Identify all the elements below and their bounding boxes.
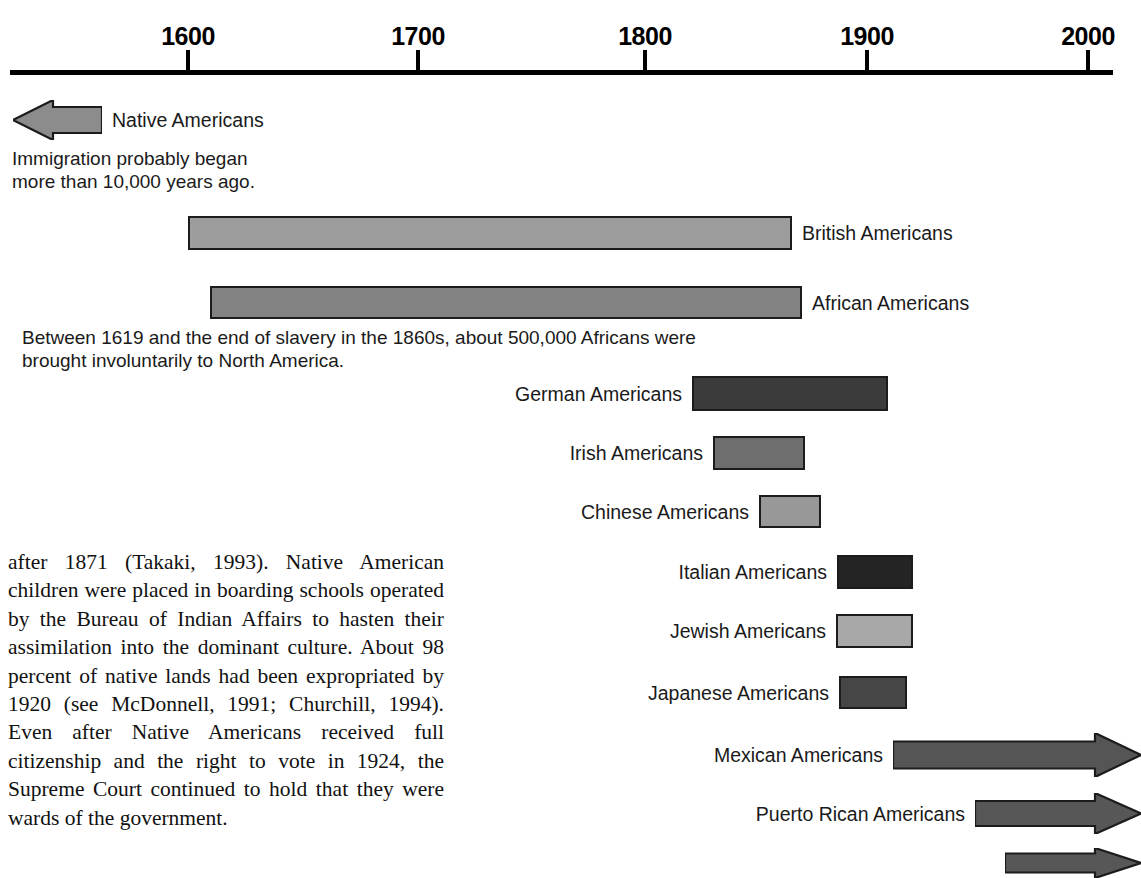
- timeline-bar-jewish-americans: [836, 614, 913, 648]
- note-line-2: more than 10,000 years ago.: [12, 170, 255, 193]
- timeline-bar-german-americans: [692, 376, 888, 411]
- timeline-bar-japanese-americans: [839, 676, 907, 709]
- row-label-puerto-rican-americans: Puerto Rican Americans: [756, 805, 965, 825]
- row-label-british-americans: British Americans: [802, 224, 953, 244]
- axis-tick-label-1700: 1700: [391, 22, 445, 51]
- timeline-arrow-right-puerto-rican-americans: [975, 793, 1141, 834]
- note-african-americans: Between 1619 and the end of slavery in t…: [22, 326, 696, 372]
- row-label-italian-americans: Italian Americans: [679, 563, 828, 583]
- timeline-bar-chinese-americans: [759, 495, 821, 528]
- body-paragraph: after 1871 (Takaki, 1993). Native Americ…: [8, 548, 444, 832]
- axis-tick-label-1600: 1600: [161, 22, 215, 51]
- axis-tick-label-2000: 2000: [1061, 22, 1115, 51]
- row-label-irish-americans: Irish Americans: [570, 444, 703, 464]
- timeline-bar-irish-americans: [713, 436, 805, 470]
- row-label-jewish-americans: Jewish Americans: [670, 622, 826, 642]
- timeline-arrow-right-mexican-americans: [893, 733, 1141, 777]
- note-line-1: Between 1619 and the end of slavery in t…: [22, 326, 696, 349]
- note-native-americans: Immigration probably beganmore than 10,0…: [12, 147, 255, 193]
- axis-tick-1900: [865, 50, 869, 72]
- timeline-bar-british-americans: [188, 216, 792, 250]
- body-text-column: after 1871 (Takaki, 1993). Native Americ…: [8, 548, 444, 832]
- axis-tick-1600: [186, 50, 190, 72]
- axis-tick-label-1800: 1800: [618, 22, 672, 51]
- axis-tick-label-1900: 1900: [840, 22, 894, 51]
- timeline-bar-african-americans: [210, 286, 802, 319]
- row-label-chinese-americans: Chinese Americans: [581, 503, 749, 523]
- axis-tick-1800: [643, 50, 647, 72]
- row-label-native-americans: Native Americans: [112, 111, 264, 131]
- row-label-mexican-americans: Mexican Americans: [714, 746, 883, 766]
- row-label-african-americans: African Americans: [812, 294, 969, 314]
- axis-tick-1700: [416, 50, 420, 72]
- row-label-japanese-americans: Japanese Americans: [648, 684, 829, 704]
- timeline-arrow-left-native-americans: [13, 100, 102, 140]
- timeline-axis: [10, 70, 1113, 75]
- row-label-german-americans: German Americans: [515, 385, 682, 405]
- timeline-bar-italian-americans: [837, 555, 913, 589]
- note-line-2: brought involuntarily to North America.: [22, 349, 696, 372]
- timeline-arrow-right-unlabeled-americans: [1005, 848, 1141, 878]
- note-line-1: Immigration probably began: [12, 147, 255, 170]
- axis-tick-2000: [1086, 50, 1090, 72]
